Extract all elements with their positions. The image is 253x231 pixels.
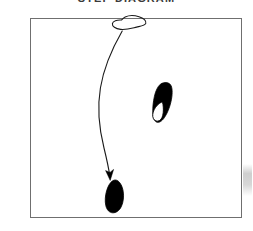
- motion-arrow-head: [106, 169, 114, 180]
- screenshot-canvas: STEP DIAGRAM: [0, 0, 253, 231]
- top-outline-blob-shape: [112, 16, 146, 30]
- bottom-filled-blob-shape: [105, 180, 123, 213]
- motion-arrow-curve: [99, 31, 122, 177]
- diagram-illustration: [0, 0, 253, 231]
